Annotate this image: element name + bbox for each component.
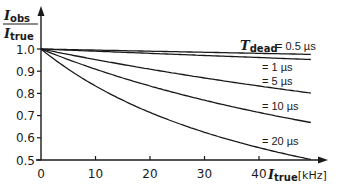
legend-prefix: Tdead	[240, 38, 278, 54]
x-tick-label: 40	[251, 167, 266, 181]
dead-time-chart: 0.50.60.70.80.91.0010203040 = 0.5 µs= 1 …	[0, 0, 340, 189]
y-tick-label: 0.5	[16, 154, 35, 168]
x-tick-label: 30	[197, 167, 212, 181]
x-axis-title: Itrue[kHz]	[267, 167, 327, 183]
curve-label: = 1 µs	[262, 61, 293, 73]
x-tick-label: 10	[88, 167, 103, 181]
ticks	[37, 49, 259, 160]
y-title-denominator: Itrue	[3, 26, 34, 42]
y-tick-label: 0.7	[16, 109, 35, 123]
y-tick-label: 0.8	[16, 87, 35, 101]
y-tick-label: 0.9	[16, 65, 35, 79]
x-tick-label: 0	[37, 167, 45, 181]
y-axis-arrow-icon	[38, 6, 45, 16]
curve-label: = 10 µs	[262, 100, 299, 112]
curve-label: = 20 µs	[262, 135, 299, 147]
x-axis-arrow-icon	[318, 157, 328, 164]
curve-label: = 5 µs	[262, 75, 293, 87]
curve-label: = 0.5 µs	[276, 40, 316, 52]
y-title-numerator: Iobs	[3, 8, 30, 24]
y-axis-title: Iobs Itrue	[3, 8, 38, 42]
x-tick-label: 20	[142, 167, 157, 181]
y-tick-label: 0.6	[16, 131, 35, 145]
y-tick-label: 1.0	[16, 43, 35, 57]
curve-labels: = 0.5 µs= 1 µs= 5 µs= 10 µs= 20 µs	[262, 40, 316, 147]
